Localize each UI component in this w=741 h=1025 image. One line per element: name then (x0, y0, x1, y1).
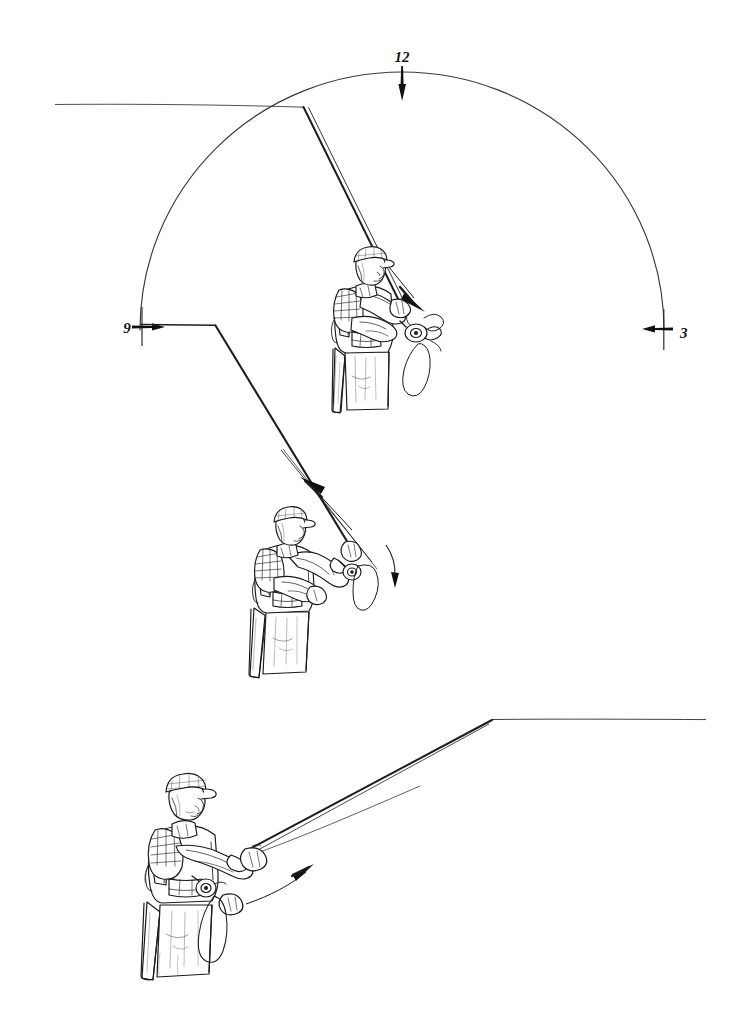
clock-label-12: 12 (395, 49, 411, 65)
clock-label-9: 9 (123, 320, 131, 336)
fly-line-middle (141, 325, 215, 326)
page-background (0, 0, 741, 1025)
illustration-page: 12 9 3 (0, 0, 741, 1025)
fly-casting-diagram: 12 9 3 (0, 0, 741, 1025)
clock-label-3: 3 (679, 325, 688, 341)
